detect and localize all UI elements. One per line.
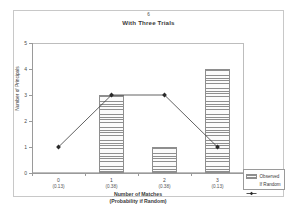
x-axis-title: Number of Matches — [32, 191, 244, 197]
figure-number: 6 — [0, 12, 297, 17]
x-axis-sublabel-2: (0.38) — [145, 184, 185, 189]
y-axis-title: Number of Principals — [15, 39, 20, 139]
legend-item-observed: Observed — [246, 172, 282, 180]
if-random-series — [32, 43, 244, 173]
x-axis-label-3: 3 — [198, 177, 238, 183]
legend-bar-swatch-icon — [246, 174, 257, 179]
x-tick-boundary-1 — [85, 173, 86, 176]
x-axis-label-2: 2 — [145, 177, 185, 183]
legend-label-if-random: If Random — [260, 182, 281, 187]
legend-item-if-random: If Random — [246, 180, 282, 188]
y-axis-label-0: 0 — [11, 170, 27, 176]
chart-legend: Observed If Random — [243, 169, 285, 190]
x-axis-label-0: 0 — [39, 177, 79, 183]
x-tick-boundary-2 — [138, 173, 139, 176]
x-tick-boundary-0 — [32, 173, 33, 176]
legend-label-observed: Observed — [260, 174, 280, 179]
figure-container: 6 With Three Trials 0 1 2 3 4 5 Number o… — [0, 0, 297, 213]
if-random-line — [59, 95, 218, 147]
x-axis-sublabel-1: (0.38) — [92, 184, 132, 189]
y-axis-label-1: 1 — [11, 144, 27, 150]
x-axis-subtitle: (Probability if Random) — [32, 198, 244, 204]
legend-line-swatch-icon — [246, 182, 257, 187]
chart-title: With Three Trials — [0, 19, 297, 26]
x-axis-label-1: 1 — [92, 177, 132, 183]
x-tick-boundary-3 — [191, 173, 192, 176]
x-axis-sublabel-0: (0.13) — [39, 184, 79, 189]
x-axis-sublabel-3: (0.13) — [198, 184, 238, 189]
